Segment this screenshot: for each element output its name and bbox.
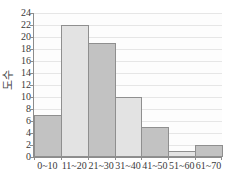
y-axis-tick-label: 20	[1, 32, 31, 42]
bar-0~10	[34, 115, 62, 157]
bar-61~70	[195, 145, 223, 157]
plot-area-wrapper	[34, 13, 222, 157]
histogram-chart: 도수 024681012141618202224 0~1011~2021~303…	[0, 0, 236, 184]
y-axis-tick-label: 22	[1, 20, 31, 30]
y-axis-tick-label: 4	[1, 128, 31, 138]
y-axis-tick-label: 12	[1, 80, 31, 90]
y-axis-tick-label: 6	[1, 116, 31, 126]
x-axis-tick-labels: 0~1011~2021~3031~4041~5051~6061~70	[34, 160, 222, 178]
y-axis-tick-label: 24	[1, 8, 31, 18]
y-axis-tick-label: 16	[1, 56, 31, 66]
bar-21~30	[88, 43, 116, 157]
x-axis-tick-label: 61~70	[191, 160, 226, 172]
y-axis-tick-label: 8	[1, 104, 31, 114]
bar-31~40	[115, 97, 143, 157]
bar-41~50	[141, 127, 169, 157]
y-axis-tick-label: 0	[1, 152, 31, 162]
bar-11~20	[61, 25, 89, 157]
y-axis-tick-label: 18	[1, 44, 31, 54]
y-axis-tick-label: 2	[1, 140, 31, 150]
y-axis-tick-label: 10	[1, 92, 31, 102]
y-axis-tick-labels: 024681012141618202224	[0, 13, 31, 157]
y-axis-tick-label: 14	[1, 68, 31, 78]
bar-series	[34, 13, 222, 157]
